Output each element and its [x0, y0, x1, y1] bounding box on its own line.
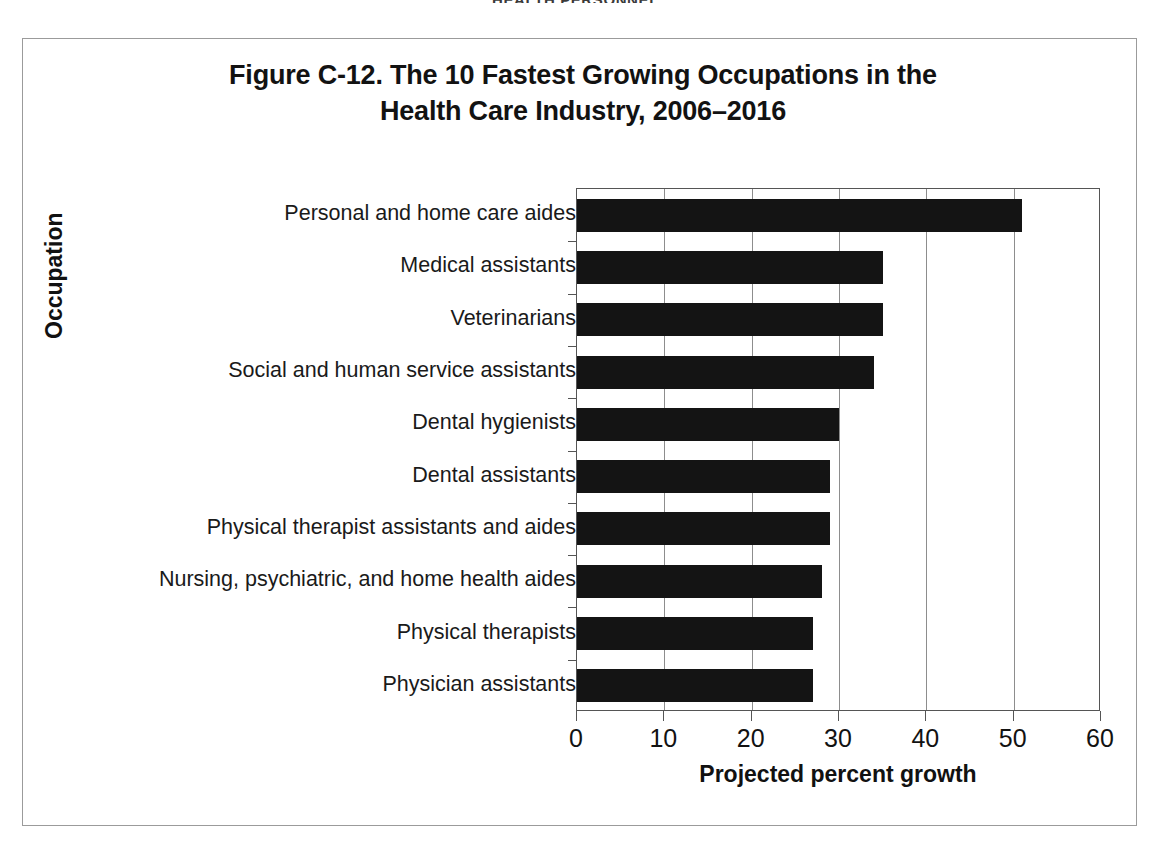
y-axis-tick-label: Physical therapist assistants and aides — [16, 517, 576, 539]
y-axis-tick — [568, 555, 577, 556]
y-axis-tick — [568, 503, 577, 504]
y-axis-tick — [568, 346, 577, 347]
x-axis-tick — [1100, 711, 1101, 721]
x-axis-tick — [663, 711, 664, 721]
bar-row[interactable] — [577, 241, 1099, 293]
figure-container: Figure C-12. The 10 Fastest Growing Occu… — [22, 38, 1137, 826]
x-axis-tick-label: 50 — [983, 724, 1043, 753]
x-axis-title: Projected percent growth — [576, 761, 1100, 788]
figure-title-line-1: Figure C-12. The 10 Fastest Growing Occu… — [133, 57, 1033, 93]
x-axis-tick — [838, 711, 839, 721]
x-axis-tick-label: 60 — [1070, 724, 1130, 753]
bar-row[interactable] — [577, 451, 1099, 503]
y-axis-tick-labels: Personal and home care aidesMedical assi… — [11, 188, 576, 711]
bar-row[interactable] — [577, 660, 1099, 712]
bar[interactable] — [577, 460, 830, 493]
y-axis-tick-label: Veterinarians — [16, 308, 576, 330]
y-axis-tick-label: Dental assistants — [16, 465, 576, 487]
y-axis-tick-label: Physician assistants — [16, 674, 576, 696]
bar[interactable] — [577, 251, 883, 284]
y-axis-tick-label: Personal and home care aides — [16, 203, 576, 225]
bar-row[interactable] — [577, 398, 1099, 450]
bar[interactable] — [577, 303, 883, 336]
x-axis-tick-label: 20 — [721, 724, 781, 753]
y-axis-tick — [568, 241, 577, 242]
x-axis-tick-label: 0 — [546, 724, 606, 753]
figure-title: Figure C-12. The 10 Fastest Growing Occu… — [133, 57, 1033, 129]
y-axis-tick-label: Dental hygienists — [16, 412, 576, 434]
x-axis-tick-label: 40 — [895, 724, 955, 753]
bar[interactable] — [577, 408, 839, 441]
x-axis-tick-label: 10 — [633, 724, 693, 753]
bar-row[interactable] — [577, 294, 1099, 346]
plot-area — [576, 188, 1100, 711]
bar-row[interactable] — [577, 346, 1099, 398]
y-axis-tick-label: Medical assistants — [16, 255, 576, 277]
x-axis-tick-label: 30 — [808, 724, 868, 753]
bar[interactable] — [577, 669, 813, 702]
y-axis-tick-label: Physical therapists — [16, 622, 576, 644]
y-axis-tick — [568, 451, 577, 452]
bar-row[interactable] — [577, 189, 1099, 241]
running-head: HEALTH PERSONNEL — [0, 0, 1151, 3]
x-axis-tick — [1013, 711, 1014, 721]
y-axis-tick-label: Nursing, psychiatric, and home health ai… — [16, 569, 576, 591]
x-axis-tick — [925, 711, 926, 721]
bar[interactable] — [577, 512, 830, 545]
bar-row[interactable] — [577, 555, 1099, 607]
bar[interactable] — [577, 565, 822, 598]
bar-row[interactable] — [577, 503, 1099, 555]
x-axis-tick — [576, 711, 577, 721]
bar[interactable] — [577, 356, 874, 389]
bar[interactable] — [577, 199, 1022, 232]
bar[interactable] — [577, 617, 813, 650]
y-axis-tick — [568, 398, 577, 399]
y-axis-tick — [568, 607, 577, 608]
bar-row[interactable] — [577, 607, 1099, 659]
y-axis-tick — [568, 294, 577, 295]
figure-title-line-2: Health Care Industry, 2006–2016 — [133, 93, 1033, 129]
y-axis-tick-label: Social and human service assistants — [16, 360, 576, 382]
y-axis-tick — [568, 660, 577, 661]
x-axis-tick — [751, 711, 752, 721]
